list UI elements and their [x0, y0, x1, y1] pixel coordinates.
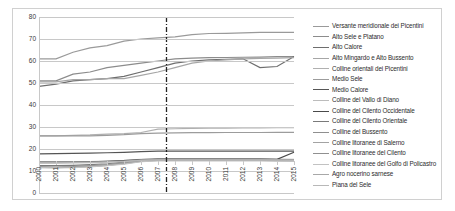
- legend-label: Alto Mingardo e Alto Bussento: [332, 55, 413, 61]
- x-axis-tick-label: 2002: [70, 167, 77, 181]
- legend-item[interactable]: Colline orientali dei Picentini: [313, 63, 455, 74]
- chart-legend: Versante meridionale dei PicentiniAlto S…: [313, 21, 455, 191]
- legend-label: Alto Sele e Platano: [332, 34, 384, 40]
- legend-item[interactable]: Alto Mingardo e Alto Bussento: [313, 53, 455, 64]
- x-axis-tick: [39, 161, 40, 165]
- legend-swatch-icon: [313, 174, 329, 175]
- x-axis-tick: [73, 161, 74, 165]
- legend-label: Versante meridionale dei Picentini: [332, 23, 423, 29]
- legend-item[interactable]: Colline litoranee di Salerno: [313, 138, 455, 149]
- legend-label: Medio Sele: [332, 76, 363, 82]
- legend-swatch-icon: [313, 111, 329, 112]
- legend-swatch-icon: [313, 164, 329, 165]
- x-axis-tick-label: 2008: [172, 167, 179, 181]
- x-axis-tick-label: 2009: [189, 167, 196, 181]
- x-axis-tick-label: 2011: [223, 167, 230, 181]
- x-axis-tick: [294, 161, 295, 165]
- legend-label: Colline del Bussento: [332, 129, 387, 135]
- gridline: [39, 149, 294, 150]
- legend-swatch-icon: [313, 68, 329, 69]
- gridline: [39, 127, 294, 128]
- x-axis-tick: [226, 161, 227, 165]
- legend-item[interactable]: Alto Calore: [313, 42, 455, 53]
- x-axis-tick-label: 2012: [240, 167, 247, 181]
- legend-swatch-icon: [313, 89, 329, 90]
- gridline: [39, 17, 294, 18]
- legend-item[interactable]: Piana del Sele: [313, 180, 455, 191]
- x-axis-tick: [141, 161, 142, 165]
- legend-label: Agro nocerino sarnese: [332, 171, 393, 177]
- x-axis-tick: [107, 161, 108, 165]
- legend-swatch-icon: [313, 58, 329, 59]
- legend-label: Colline litoranee di Salerno: [332, 140, 404, 146]
- legend-item[interactable]: Medio Sele: [313, 74, 455, 85]
- x-axis-tick-label: 2015: [291, 167, 298, 181]
- chart-frame: 01020304050607080 2000200120022003200420…: [12, 8, 442, 200]
- legend-item[interactable]: Colline del Cilento Orientale: [313, 116, 455, 127]
- gridline: [39, 105, 294, 106]
- x-axis-tick: [90, 161, 91, 165]
- x-axis-tick-label: 2007: [155, 167, 162, 181]
- y-axis-tick-label: 50: [29, 80, 36, 87]
- legend-swatch-icon: [313, 185, 329, 186]
- legend-item[interactable]: Colline litoranee del Golfo di Policastr…: [313, 159, 455, 170]
- y-axis-tick-label: 60: [29, 58, 36, 65]
- legend-label: Alto Calore: [332, 44, 362, 50]
- legend-swatch-icon: [313, 26, 329, 27]
- legend-item[interactable]: Versante meridionale dei Picentini: [313, 21, 455, 32]
- gridline: [39, 61, 294, 62]
- gridline: [39, 39, 294, 40]
- legend-label: Medio Calore: [332, 87, 368, 93]
- y-axis-tick-label: 0: [32, 190, 36, 197]
- x-axis-tick-label: 2006: [138, 167, 145, 181]
- x-axis-tick: [158, 161, 159, 165]
- x-axis-tick: [175, 161, 176, 165]
- x-axis-labels: 2000200120022003200420052006200720082009…: [39, 161, 294, 207]
- x-axis-tick-label: 2013: [257, 167, 264, 181]
- legend-swatch-icon: [313, 100, 329, 101]
- legend-item[interactable]: Agro nocerino sarnese: [313, 169, 455, 180]
- legend-swatch-icon: [313, 47, 329, 48]
- legend-label: Colline del Cilento Occidentale: [332, 108, 415, 114]
- y-axis-tick-label: 70: [29, 36, 36, 43]
- legend-item[interactable]: Alto Sele e Platano: [313, 32, 455, 43]
- y-axis-tick-label: 20: [29, 146, 36, 153]
- y-axis-tick-label: 40: [29, 102, 36, 109]
- y-axis-tick-label: 80: [29, 14, 36, 21]
- legend-label: Colline del Vallo di Diano: [332, 97, 399, 103]
- legend-item[interactable]: Colline del Cilento Occidentale: [313, 106, 455, 117]
- legend-label: Colline litoranee del Cilento: [332, 150, 406, 156]
- x-axis-tick: [260, 161, 261, 165]
- legend-swatch-icon: [313, 132, 329, 133]
- x-axis-tick: [56, 161, 57, 165]
- y-axis-tick-label: 30: [29, 124, 36, 131]
- x-axis-tick-label: 2003: [87, 167, 94, 181]
- legend-swatch-icon: [313, 153, 329, 154]
- x-axis-tick-label: 2004: [104, 167, 111, 181]
- x-axis-tick-label: 2014: [274, 167, 281, 181]
- legend-label: Piana del Sele: [332, 182, 371, 188]
- legend-swatch-icon: [313, 36, 329, 37]
- legend-item[interactable]: Colline del Bussento: [313, 127, 455, 138]
- legend-swatch-icon: [313, 121, 329, 122]
- legend-item[interactable]: Colline litoranee del Cilento: [313, 148, 455, 159]
- legend-item[interactable]: Colline del Vallo di Diano: [313, 95, 455, 106]
- x-axis-tick: [209, 161, 210, 165]
- x-axis-tick: [192, 161, 193, 165]
- x-axis-tick-label: 2005: [121, 167, 128, 181]
- legend-label: Colline del Cilento Orientale: [332, 118, 407, 124]
- x-axis-tick-label: 2001: [53, 167, 60, 181]
- legend-label: Colline orientali dei Picentini: [332, 66, 408, 72]
- gridline: [39, 83, 294, 84]
- legend-swatch-icon: [313, 142, 329, 143]
- x-axis-tick-label: 2010: [206, 167, 213, 181]
- legend-label: Colline litoranee del Golfo di Policastr…: [332, 161, 436, 167]
- legend-swatch-icon: [313, 79, 329, 80]
- x-axis-tick-label: 2000: [36, 167, 43, 181]
- x-axis-tick: [124, 161, 125, 165]
- x-axis-tick: [277, 161, 278, 165]
- x-axis-tick: [243, 161, 244, 165]
- legend-item[interactable]: Medio Calore: [313, 85, 455, 96]
